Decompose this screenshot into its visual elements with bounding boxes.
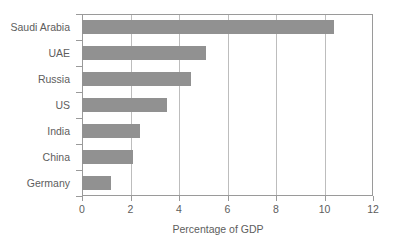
value-axis-tick-label: 6 xyxy=(213,203,243,216)
category-axis-tick xyxy=(76,14,82,15)
bar-chart: Saudi ArabiaUAERussiaUSIndiaChinaGermany… xyxy=(0,0,394,249)
value-axis-tick xyxy=(276,196,277,201)
bar xyxy=(82,98,167,112)
category-label: Saudi Arabia xyxy=(10,21,70,33)
value-axis-tick-label: 0 xyxy=(67,203,97,216)
category-axis-tick xyxy=(76,118,82,119)
value-axis-tick xyxy=(228,196,229,201)
bar xyxy=(82,72,191,86)
value-axis-tick-label: 2 xyxy=(116,203,146,216)
category-label: Russia xyxy=(38,73,70,85)
category-axis-tick xyxy=(76,66,82,67)
category-label: UAE xyxy=(48,47,70,59)
value-axis-tick xyxy=(131,196,132,201)
bar xyxy=(82,20,334,34)
category-axis-labels: Saudi ArabiaUAERussiaUSIndiaChinaGermany xyxy=(0,14,78,196)
x-axis-title: Percentage of GDP xyxy=(0,223,394,235)
bar xyxy=(82,124,140,138)
value-axis-tick-label: 10 xyxy=(310,203,340,216)
category-axis-tick xyxy=(76,170,82,171)
value-axis-tick xyxy=(82,196,83,201)
value-axis-tick-label: 8 xyxy=(261,203,291,216)
value-axis-tick-label: 12 xyxy=(358,203,388,216)
value-axis-tick xyxy=(179,196,180,201)
category-label: China xyxy=(43,151,70,163)
value-axis-tick-label: 4 xyxy=(164,203,194,216)
category-label: Germany xyxy=(27,177,70,189)
category-axis-tick xyxy=(76,144,82,145)
category-axis-tick xyxy=(76,196,82,197)
value-axis-tick xyxy=(373,196,374,201)
category-axis-tick xyxy=(76,92,82,93)
bar xyxy=(82,46,206,60)
category-axis-tick xyxy=(76,40,82,41)
x-axis-title-text: Percentage of GDP xyxy=(172,223,263,235)
bar xyxy=(82,176,111,190)
value-axis-tick xyxy=(325,196,326,201)
category-label: India xyxy=(47,125,70,137)
bars-layer xyxy=(82,14,373,196)
category-label: US xyxy=(55,99,70,111)
bar xyxy=(82,150,133,164)
